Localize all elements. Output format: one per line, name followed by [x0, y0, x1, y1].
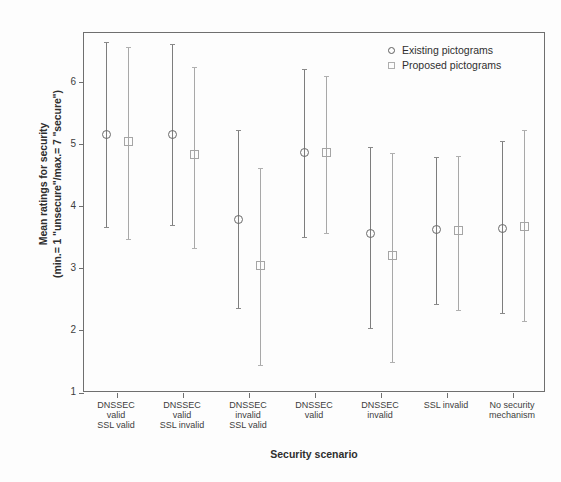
data-point-square — [454, 226, 463, 235]
x-tick-line — [249, 393, 250, 398]
y-axis-title-line1: Mean ratings for security — [36, 59, 50, 309]
y-tick-line — [79, 144, 84, 145]
error-bar-cap — [104, 227, 109, 228]
x-tick-label-line: valid — [145, 410, 219, 420]
x-tick-label-line: No security — [475, 400, 549, 410]
error-bar-cap — [170, 44, 175, 45]
data-point-square — [124, 137, 133, 146]
x-tick-label-line: DNSSEC — [277, 400, 351, 410]
error-bar-cap — [368, 147, 373, 148]
y-tick-label: 6 — [62, 76, 76, 87]
error-bar-cap — [324, 233, 329, 234]
error-bar-cap — [522, 321, 527, 322]
error-bar-cap — [368, 328, 373, 329]
legend-label-proposed: Proposed pictograms — [402, 58, 501, 73]
data-point-circle — [366, 229, 375, 238]
y-tick-line — [79, 393, 84, 394]
error-bar-cap — [192, 248, 197, 249]
y-tick-line — [79, 82, 84, 83]
x-tick-line — [315, 393, 316, 398]
error-bar-cap — [126, 47, 131, 48]
x-tick-label: No securitymechanism — [475, 400, 549, 420]
data-point-circle — [168, 130, 177, 139]
x-tick-label: SSL invalid — [409, 400, 483, 410]
error-bar-cap — [500, 313, 505, 314]
error-bar-cap — [170, 225, 175, 226]
x-tick-label-line: DNSSEC — [79, 400, 153, 410]
error-bar-cap — [500, 141, 505, 142]
error-bar-cap — [522, 130, 527, 131]
error-bar-cap — [192, 67, 197, 68]
x-tick-line — [117, 393, 118, 398]
error-bar-cap — [434, 304, 439, 305]
x-tick-label-line: valid — [277, 410, 351, 420]
error-bar-chart: Mean ratings for security (min.= 1 "unse… — [0, 0, 561, 482]
plot-area: 123456 Existing pictograms Proposed pict… — [83, 32, 545, 392]
x-tick-label: DNSSECinvalid — [343, 400, 417, 420]
data-point-square — [190, 150, 199, 159]
y-axis-title: Mean ratings for security (min.= 1 "unse… — [36, 59, 64, 309]
x-tick-label-line: invalid — [343, 410, 417, 420]
legend: Existing pictograms Proposed pictograms — [384, 43, 501, 73]
y-tick-label: 2 — [62, 324, 76, 335]
x-tick-line — [381, 393, 382, 398]
x-tick-line — [183, 393, 184, 398]
error-bar-cap — [456, 310, 461, 311]
y-tick-line — [79, 268, 84, 269]
y-tick-label: 4 — [62, 200, 76, 211]
data-point-circle — [102, 130, 111, 139]
data-point-circle — [498, 224, 507, 233]
x-tick-label-line: DNSSEC — [343, 400, 417, 410]
x-tick-label: DNSSECvalid — [277, 400, 351, 420]
x-tick-line — [513, 393, 514, 398]
error-bar-cap — [390, 153, 395, 154]
y-tick-label: 3 — [62, 262, 76, 273]
x-tick-label-line: mechanism — [475, 410, 549, 420]
x-tick-label-line: SSL valid — [79, 420, 153, 430]
error-bar-cap — [236, 130, 241, 131]
error-bar-cap — [126, 239, 131, 240]
legend-item-existing: Existing pictograms — [384, 43, 501, 58]
error-bar-cap — [302, 69, 307, 70]
error-bar-cap — [302, 237, 307, 238]
data-point-square — [388, 251, 397, 260]
error-bar-cap — [258, 168, 263, 169]
error-bar-cap — [390, 362, 395, 363]
error-bar-cap — [456, 156, 461, 157]
error-bar-cap — [434, 157, 439, 158]
x-tick-line — [447, 393, 448, 398]
x-tick-label-line: invalid — [211, 410, 285, 420]
y-tick-label: 1 — [62, 386, 76, 397]
y-tick-line — [79, 206, 84, 207]
x-tick-label-line: SSL invalid — [409, 400, 483, 410]
data-point-circle — [234, 215, 243, 224]
data-point-square — [322, 148, 331, 157]
error-bar-cap — [258, 365, 263, 366]
data-point-circle — [432, 225, 441, 234]
legend-item-proposed: Proposed pictograms — [384, 58, 501, 73]
error-bar-cap — [104, 42, 109, 43]
error-bar-cap — [236, 308, 241, 309]
square-marker-icon — [384, 62, 398, 69]
legend-label-existing: Existing pictograms — [402, 43, 493, 58]
data-point-square — [520, 222, 529, 231]
y-tick-label: 5 — [62, 138, 76, 149]
x-tick-label: DNSSECvalidSSL invalid — [145, 400, 219, 430]
x-tick-label-line: valid — [79, 410, 153, 420]
x-tick-label-line: DNSSEC — [211, 400, 285, 410]
x-tick-label-line: SSL valid — [211, 420, 285, 430]
y-tick-line — [79, 330, 84, 331]
data-point-square — [256, 261, 265, 270]
x-tick-label: DNSSECvalidSSL valid — [79, 400, 153, 430]
x-tick-label: DNSSECinvalidSSL valid — [211, 400, 285, 430]
data-point-circle — [300, 148, 309, 157]
x-tick-label-line: SSL invalid — [145, 420, 219, 430]
x-tick-label-line: DNSSEC — [145, 400, 219, 410]
circle-marker-icon — [384, 47, 398, 54]
x-axis-title: Security scenario — [83, 448, 545, 460]
error-bar-cap — [324, 76, 329, 77]
